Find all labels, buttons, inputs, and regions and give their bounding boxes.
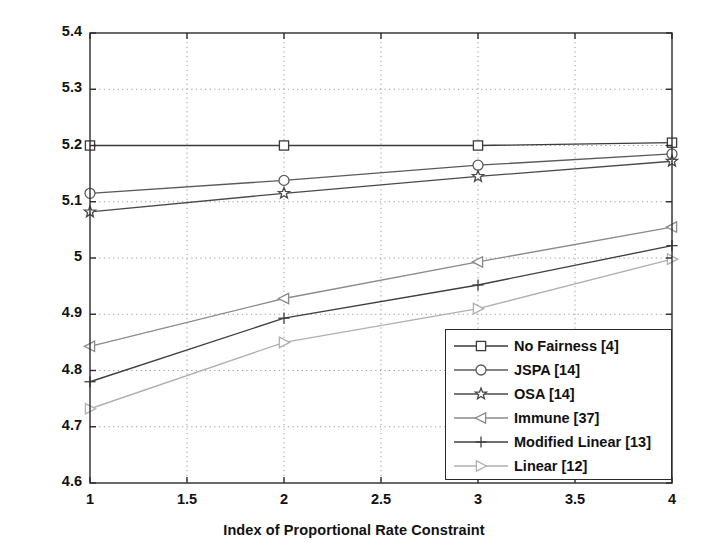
y-tick-label: 5.2 <box>20 136 82 152</box>
legend-item-label: JSPA [14] <box>510 363 580 378</box>
legend-item-label: Immune [37] <box>510 411 599 426</box>
legend-item[interactable]: JSPA [14] <box>446 358 671 382</box>
square-marker <box>473 141 482 150</box>
x-tick-label: 2.5 <box>351 491 411 507</box>
series-1 <box>85 149 677 198</box>
x-tick-label: 3 <box>448 491 508 507</box>
legend-item-label: No Fairness [4] <box>510 339 619 354</box>
x-tick-label: 1 <box>60 491 120 507</box>
star-marker <box>452 383 510 405</box>
plus-marker <box>452 431 510 453</box>
triangle-right-marker <box>452 455 510 477</box>
series-line <box>90 154 672 193</box>
legend-item-label: Linear [12] <box>510 459 587 474</box>
y-tick-label: 4.6 <box>20 473 82 489</box>
legend-item[interactable]: Modified Linear [13] <box>446 430 671 454</box>
y-tick-label: 4.9 <box>20 304 82 320</box>
triangle-left-marker <box>278 293 288 303</box>
star-marker <box>278 187 289 198</box>
x-tick-label: 4 <box>642 491 702 507</box>
y-tick-label: 4.8 <box>20 361 82 377</box>
circle-marker <box>476 365 486 375</box>
plus-marker <box>472 279 483 290</box>
legend-item[interactable]: Immune [37] <box>446 406 671 430</box>
square-marker <box>476 341 485 350</box>
square-marker <box>452 335 510 357</box>
legend-item-label: OSA [14] <box>510 387 575 402</box>
square-marker <box>279 141 288 150</box>
triangle-left-marker <box>452 407 510 429</box>
legend: No Fairness [4]JSPA [14]OSA [14]Immune [… <box>445 329 672 480</box>
y-tick-label: 5.4 <box>20 23 82 39</box>
plus-marker <box>475 436 486 447</box>
x-tick-label: 2 <box>254 491 314 507</box>
legend-item[interactable]: Linear [12] <box>446 454 671 478</box>
y-tick-label: 4.7 <box>20 417 82 433</box>
y-tick-label: 5 <box>20 248 82 264</box>
triangle-left-marker <box>475 413 485 423</box>
circle-marker <box>473 160 483 170</box>
star-marker <box>475 388 486 399</box>
triangle-right-marker <box>476 461 486 471</box>
circle-marker <box>452 359 510 381</box>
x-axis-title: Index of Proportional Rate Constraint <box>0 522 708 538</box>
x-tick-label: 1.5 <box>157 491 217 507</box>
y-tick-label: 5.1 <box>20 192 82 208</box>
chart-figure: 4.64.74.84.955.15.25.35.4 11.522.533.54 … <box>0 0 708 559</box>
legend-item-label: Modified Linear [13] <box>510 435 651 450</box>
legend-item[interactable]: No Fairness [4] <box>446 334 671 358</box>
legend-item[interactable]: OSA [14] <box>446 382 671 406</box>
circle-marker <box>279 175 289 185</box>
star-marker <box>472 171 483 182</box>
y-tick-label: 5.3 <box>20 79 82 95</box>
x-tick-label: 3.5 <box>545 491 605 507</box>
